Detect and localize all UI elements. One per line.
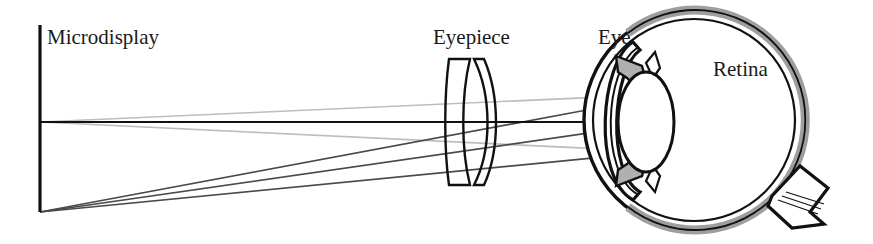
label-microdisplay: Microdisplay [47,25,159,49]
label-retina: Retina [713,57,768,81]
optical-diagram-figure: Microdisplay Eyepiece Eye Retina [0,0,873,244]
crystalline-lens [618,72,674,172]
optical-diagram-canvas: Microdisplay Eyepiece Eye Retina [0,0,873,244]
label-eyepiece: Eyepiece [433,25,510,49]
label-eye: Eye [598,25,631,49]
